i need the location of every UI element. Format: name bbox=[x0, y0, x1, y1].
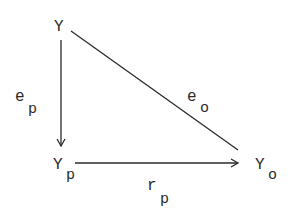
node-yo-sub: o bbox=[268, 167, 277, 184]
node-yp-sub: p bbox=[66, 167, 75, 184]
edge-eo-label: e bbox=[187, 88, 197, 106]
node-yo-label: Y bbox=[255, 156, 265, 174]
edge-label-rp: r p bbox=[147, 177, 169, 208]
node-yp-label: Y bbox=[53, 156, 63, 174]
edge-ep-sub: p bbox=[28, 101, 37, 118]
edge-label-eo: e o bbox=[187, 88, 209, 117]
edge-ep-label: e bbox=[15, 88, 25, 106]
node-yp: Y p bbox=[53, 156, 75, 184]
edge-eo-sub: o bbox=[200, 100, 209, 117]
edge-rp-sub: p bbox=[160, 191, 169, 208]
edge-label-ep: e p bbox=[15, 88, 37, 118]
edge-eo-line bbox=[71, 31, 238, 150]
path-diagram: Y Y p Y o e p e o r p bbox=[0, 0, 297, 211]
node-y: Y bbox=[54, 18, 64, 36]
node-yo: Y o bbox=[255, 156, 277, 184]
edge-rp-label: r bbox=[147, 177, 157, 195]
